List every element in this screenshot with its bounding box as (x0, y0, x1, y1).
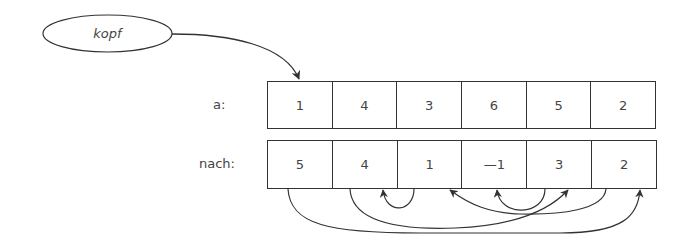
link-arrow-2-1 (383, 189, 414, 208)
array-a-cell: 6 (462, 82, 527, 128)
link-arrow-1-4 (350, 189, 568, 228)
link-arrow-0-5 (288, 189, 640, 233)
array-nach-cell: 2 (592, 141, 656, 188)
link-arrow-4-3 (497, 189, 545, 210)
array-nach-cell: 4 (333, 141, 398, 188)
array-nach-cell: 5 (268, 141, 333, 188)
link-arrow-5-2 (450, 189, 606, 214)
array-a-cell: 2 (591, 82, 655, 128)
row-label-a: a: (213, 97, 225, 112)
array-a-cell: 4 (333, 82, 398, 128)
array-nach: 5 4 1 —1 3 2 (267, 140, 657, 189)
head-arrow (172, 34, 299, 79)
array-nach-cell: —1 (462, 141, 527, 188)
head-pointer-label: kopf (43, 15, 172, 52)
array-nach-cell: 1 (398, 141, 463, 188)
array-a-cell: 3 (397, 82, 462, 128)
array-a: 1 4 3 6 5 2 (267, 81, 656, 129)
array-a-cell: 1 (268, 82, 333, 128)
row-label-nach: nach: (199, 156, 235, 171)
array-a-cell: 5 (527, 82, 592, 128)
array-nach-cell: 3 (527, 141, 592, 188)
